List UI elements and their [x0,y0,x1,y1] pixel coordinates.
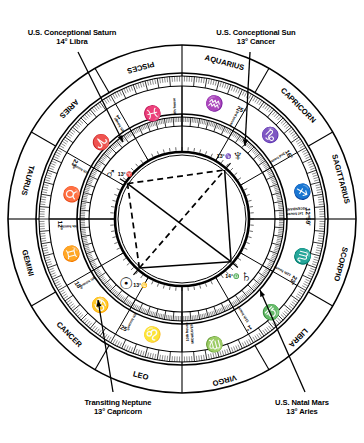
degree-tick [213,80,214,85]
inner-degree-tick [276,242,281,243]
degree-tick [76,311,80,315]
inner-degree-tick [168,118,169,123]
degree-tick [310,168,315,170]
aspect-line-square [225,170,231,262]
degree-tick [313,261,318,263]
aspect-circle-tick [211,281,212,284]
degree-tick [147,80,148,85]
degree-tick [90,109,96,117]
degree-tick [281,120,285,124]
degree-tick [265,329,268,333]
degree-tick [317,245,322,246]
inner-degree-tick [91,263,95,265]
degree-tick [52,275,61,279]
inner-degree-tick [144,309,146,314]
sign-name-taurus: TAURUS [20,164,37,196]
degree-tick [247,340,250,345]
degree-tick [299,292,304,295]
inner-degree-tick [210,312,211,317]
inner-degree-tick [197,118,198,123]
degree-tick [303,284,308,287]
inner-degree-tick [81,234,86,235]
degree-tick [59,145,64,148]
degree-tick [300,290,305,293]
degree-tick [43,252,48,253]
aspect-circle-tick [141,160,143,163]
aspect-circle-tick [244,248,247,249]
degree-tick [45,259,50,261]
degree-tick [143,82,145,87]
degree-tick [135,84,137,89]
aspect-circle-tick [114,194,117,195]
degree-tick [267,327,270,331]
degree-tick [316,187,321,188]
degree-tick [293,135,297,138]
degree-tick [72,127,80,133]
aspect-circle-tick [249,231,252,232]
inner-degree-tick [86,251,91,253]
degree-tick [303,275,312,279]
degree-tick [84,320,88,324]
degree-tick [258,102,264,110]
aspect-circle-tick [230,168,232,170]
degree-tick [63,139,68,142]
inner-degree-tick [142,308,144,313]
degree-tick [234,86,236,91]
inner-degree-tick [202,314,203,319]
inner-degree-tick [279,229,284,230]
aspect-circle-tick [211,154,212,157]
sign-glyph-scorpio: ♏ [292,245,314,268]
inner-degree-tick [136,128,138,132]
degree-tick [106,98,109,103]
degree-tick [106,336,109,341]
degree-tick [309,163,314,165]
degree-tick [255,98,258,103]
aspect-circle-tick [163,149,164,152]
inner-degree-tick [278,233,283,234]
degree-tick [269,326,272,330]
degree-tick [77,121,81,125]
inner-degree-tick [163,314,164,319]
degree-tick [94,327,97,331]
sign-name-gemini: GEMINI [20,249,36,277]
annotation-neptune-line1: Transiting Neptune [56,398,180,407]
inner-degree-tick [142,125,144,130]
degree-tick [236,346,238,351]
inner-degree-tick [278,203,283,204]
aspect-line-square [139,262,231,268]
degree-tick [196,77,197,82]
degree-tick [45,177,50,179]
degree-tick [231,347,233,352]
sign-glyph-taurus: ♉ [60,183,82,206]
inner-degree-tick [266,258,274,262]
inner-degree-tick [82,201,91,203]
degree-tick [255,336,258,341]
leader-line-mars-arrowhead [260,290,265,297]
degree-tick [40,236,45,237]
inner-degree-tick [268,265,272,267]
degree-tick [253,337,256,342]
inner-degree-tick [92,171,96,173]
degree-tick [306,156,311,158]
aspect-circle-tick [123,178,126,180]
degree-tick [61,292,66,295]
degree-tick [274,113,278,117]
degree-tick [119,90,121,95]
degree-tick [47,264,52,266]
aspect-circle-tick [200,149,201,152]
degree-tick [286,309,290,313]
degree-tick [201,355,202,360]
inner-degree-tick [217,310,219,315]
degree-tick [131,347,133,352]
degree-tick [297,141,302,144]
degree-tick [71,306,75,309]
degree-tick [58,286,67,291]
degree-tick [68,133,72,136]
inner-degree-tick [197,315,198,320]
sign-name-sagittarius: SAGITTARIUS [330,153,352,205]
degree-tick [313,175,318,177]
planet-degree-label-mars: 13°♈ [118,171,133,178]
degree-tick [51,275,56,277]
degree-tick [86,113,90,117]
aspect-line-square [127,170,224,184]
